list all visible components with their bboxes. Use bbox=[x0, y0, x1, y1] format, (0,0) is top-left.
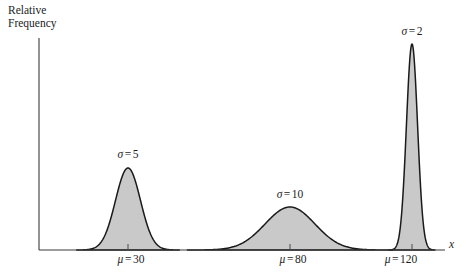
y-axis-label: Relative Frequency bbox=[8, 4, 57, 30]
curve-sigma-2 bbox=[389, 44, 435, 250]
sigma-annotation-value-1: 10 bbox=[292, 188, 304, 200]
curves-group bbox=[77, 44, 435, 250]
mu-annotation-2: μ=120 bbox=[385, 253, 418, 266]
sigma-annotation-equals-0: = bbox=[123, 148, 133, 160]
sigma-annotation-symbol-2: σ bbox=[402, 25, 408, 37]
x-axis-label: x bbox=[449, 238, 454, 251]
y-axis-label-line2: Frequency bbox=[8, 17, 57, 30]
sigma-annotation-value-2: 2 bbox=[417, 25, 423, 37]
mu-annotation-symbol-0: μ bbox=[118, 253, 124, 265]
axes-group bbox=[39, 38, 445, 250]
y-axis-label-line1: Relative bbox=[8, 4, 57, 17]
mu-annotation-1: μ=80 bbox=[280, 253, 307, 266]
chart-figure: Relative Frequency x σ=5σ=10σ=2μ=30μ=80μ… bbox=[0, 0, 466, 274]
sigma-annotation-equals-1: = bbox=[282, 188, 292, 200]
mu-annotation-value-0: 30 bbox=[133, 253, 145, 265]
sigma-annotation-symbol-1: σ bbox=[277, 188, 283, 200]
mu-annotation-equals-0: = bbox=[123, 253, 133, 265]
mu-annotation-0: μ=30 bbox=[118, 253, 145, 266]
sigma-annotation-2: σ=2 bbox=[402, 25, 423, 38]
sigma-annotation-symbol-0: σ bbox=[118, 148, 124, 160]
sigma-annotation-1: σ=10 bbox=[277, 188, 304, 201]
curve-sigma-5 bbox=[77, 168, 180, 250]
mu-annotation-value-2: 120 bbox=[400, 253, 417, 265]
normal-curves-plot bbox=[0, 0, 466, 274]
mu-annotation-equals-1: = bbox=[285, 253, 295, 265]
mu-annotation-value-1: 80 bbox=[295, 253, 307, 265]
mu-annotation-symbol-2: μ bbox=[385, 253, 391, 265]
mu-annotation-symbol-1: μ bbox=[280, 253, 286, 265]
curve-sigma-10 bbox=[187, 207, 392, 250]
sigma-annotation-0: σ=5 bbox=[118, 148, 139, 161]
mu-annotation-equals-2: = bbox=[391, 253, 401, 265]
sigma-annotation-equals-2: = bbox=[407, 25, 417, 37]
sigma-annotation-value-0: 5 bbox=[133, 148, 139, 160]
